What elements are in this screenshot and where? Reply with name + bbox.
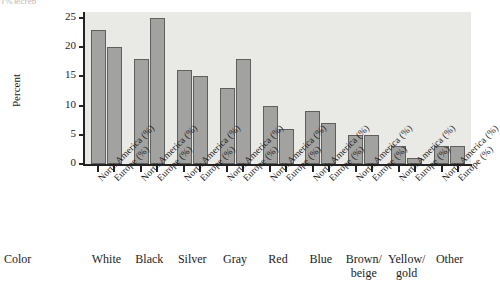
x-tick-mark xyxy=(312,166,314,172)
bar xyxy=(236,59,251,164)
y-tick-label: 5 xyxy=(71,127,77,139)
x-tick-mark xyxy=(269,166,271,172)
y-tick-mark xyxy=(79,17,85,19)
cropped-caption-fragment: (%)ecrep xyxy=(2,0,37,4)
y-tick-label: 25 xyxy=(65,10,76,22)
y-tick: 5 xyxy=(0,135,85,136)
y-tick-mark xyxy=(79,134,85,136)
y-tick-mark xyxy=(79,75,85,77)
y-tick: 25 xyxy=(0,18,85,19)
y-axis-line xyxy=(83,12,85,166)
y-tick-label: 10 xyxy=(65,98,76,110)
bar xyxy=(107,47,122,164)
y-tick-label: 0 xyxy=(71,156,77,168)
y-tick-label: 15 xyxy=(65,68,76,80)
y-tick: 15 xyxy=(0,76,85,77)
y-tick-mark xyxy=(79,163,85,165)
x-tick-mark xyxy=(355,166,357,172)
bar xyxy=(91,30,106,164)
x-tick-mark xyxy=(183,166,185,172)
y-tick-mark xyxy=(79,105,85,107)
y-tick: 10 xyxy=(0,106,85,107)
x-tick-mark xyxy=(226,166,228,172)
y-tick-mark xyxy=(79,46,85,48)
y-tick-label: 20 xyxy=(65,39,76,51)
y-tick: 0 xyxy=(0,164,85,165)
category-label: Other xyxy=(416,252,484,266)
y-tick: 20 xyxy=(0,47,85,48)
bar xyxy=(150,18,165,164)
x-tick-mark xyxy=(441,166,443,172)
x-tick-mark xyxy=(398,166,400,172)
category-axis-heading: Color xyxy=(4,252,31,267)
